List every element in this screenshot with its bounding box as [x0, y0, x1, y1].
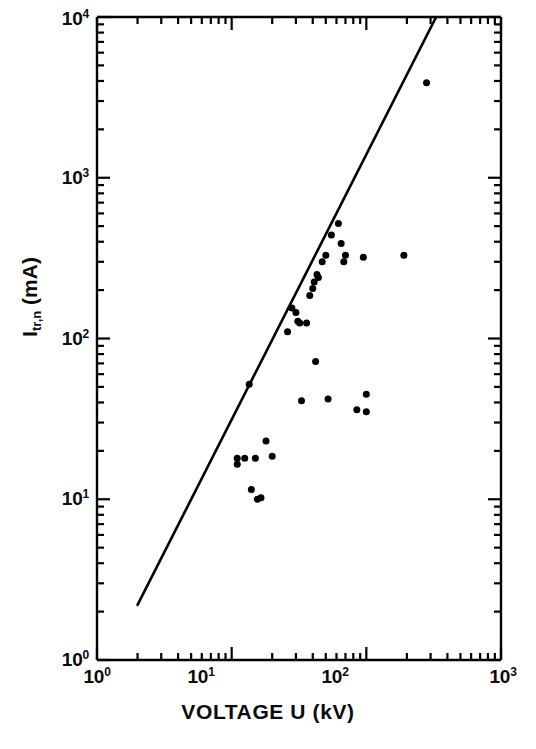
data-point [353, 406, 360, 413]
data-point [338, 240, 345, 247]
figure-root: 104 103 102 101 100 100 101 102 103 Itr,… [0, 0, 536, 749]
data-point [306, 292, 313, 299]
data-point [363, 408, 370, 415]
data-point [400, 252, 407, 259]
data-point [340, 258, 347, 265]
data-point [248, 486, 255, 493]
y-axis-title: Itr,n (mA) [18, 207, 42, 387]
y-tick-label-1000: 103 [29, 167, 89, 189]
y-tick-label-10000: 104 [29, 8, 89, 30]
data-point [363, 391, 370, 398]
data-point [292, 309, 299, 316]
data-point [335, 220, 342, 227]
x-tick-label-10: 101 [166, 666, 236, 688]
data-point [234, 461, 241, 468]
data-point [325, 396, 332, 403]
data-point [246, 381, 253, 388]
data-point [298, 397, 305, 404]
data-point [257, 494, 264, 501]
data-point [309, 285, 316, 292]
data-point [303, 319, 310, 326]
data-point [241, 455, 248, 462]
data-point [328, 232, 335, 239]
scatter-plot-canvas [0, 0, 536, 749]
data-point [360, 254, 367, 261]
data-point [315, 274, 322, 281]
data-point [319, 258, 326, 265]
data-point [296, 319, 303, 326]
y-tick-label-10: 101 [29, 488, 89, 510]
x-tick-label-1: 100 [62, 666, 132, 688]
x-tick-label-1000: 103 [468, 666, 536, 688]
data-point [234, 455, 241, 462]
data-point [423, 79, 430, 86]
data-point [342, 252, 349, 259]
data-point [252, 455, 259, 462]
data-point [322, 252, 329, 259]
x-axis-title: VOLTAGE U (kV) [0, 700, 536, 724]
data-point [312, 358, 319, 365]
data-point [269, 453, 276, 460]
data-point [263, 438, 270, 445]
data-point [284, 328, 291, 335]
x-tick-label-100: 102 [300, 666, 370, 688]
